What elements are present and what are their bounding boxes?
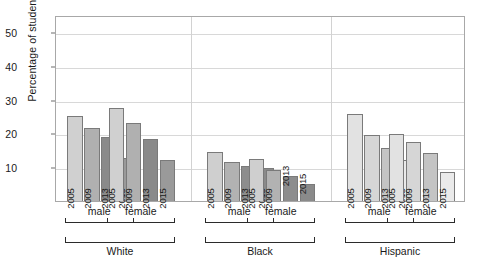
- race-bracket: [65, 237, 175, 243]
- bar: 2009: [364, 135, 380, 201]
- y-tick-label-10: 10: [0, 162, 17, 174]
- bar: 2005: [207, 152, 223, 201]
- y-tick-label-30: 30: [0, 95, 17, 107]
- sex-bracket: [107, 218, 176, 223]
- bar: 2009: [84, 128, 100, 201]
- bar: 2009: [224, 162, 240, 201]
- bar: 2005: [347, 114, 363, 201]
- bar-year-label: 2015: [298, 174, 308, 194]
- panel-separator-1: [191, 17, 192, 201]
- y-axis-title: Percentage of students smoking: [26, 0, 40, 113]
- y-tick-label-50: 50: [0, 27, 17, 39]
- bar: 2015: [160, 160, 176, 201]
- sex-bracket: [387, 218, 456, 223]
- bar-year-label: 2013: [281, 166, 291, 186]
- gridline-30: [56, 102, 464, 103]
- y-tick-label-20: 20: [0, 128, 17, 140]
- race-bracket: [345, 237, 455, 243]
- bar: 2005: [109, 108, 125, 201]
- race-bracket: [205, 237, 315, 243]
- plot-area: 2005200920132015200520092013201520052009…: [55, 16, 465, 202]
- sex-bracket-label: female: [107, 205, 176, 217]
- gridline-50: [56, 34, 464, 35]
- panel-separator-2: [331, 17, 332, 201]
- race-bracket-label: White: [65, 245, 175, 257]
- race-bracket-label: Hispanic: [345, 245, 455, 257]
- bar: 2015: [300, 184, 316, 201]
- race-bracket-label: Black: [205, 245, 315, 257]
- sex-bracket-label: female: [387, 205, 456, 217]
- y-tick-label-40: 40: [0, 61, 17, 73]
- sex-bracket: [247, 218, 316, 223]
- bar: 2005: [67, 116, 83, 201]
- sex-bracket-label: female: [247, 205, 316, 217]
- gridline-40: [56, 68, 464, 69]
- bar: 2015: [440, 172, 456, 201]
